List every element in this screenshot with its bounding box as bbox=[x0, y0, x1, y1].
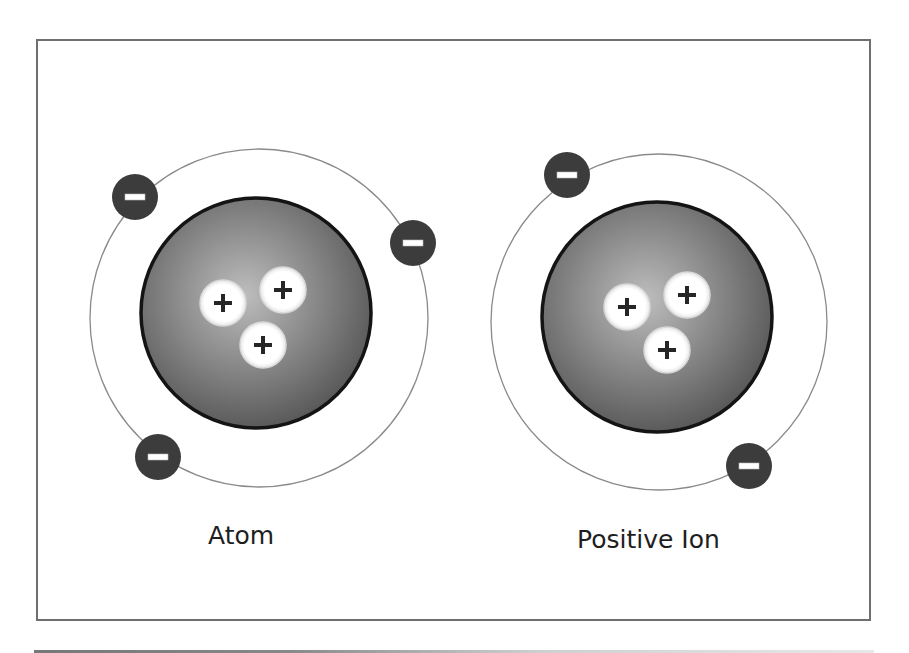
electron-icon bbox=[726, 443, 772, 489]
nucleus bbox=[141, 198, 371, 428]
atom-label: Atom bbox=[208, 521, 274, 550]
electron-icon bbox=[390, 220, 436, 266]
atom-diagrams bbox=[0, 0, 909, 653]
proton-icon bbox=[240, 322, 286, 368]
proton-icon bbox=[200, 280, 246, 326]
electron-icon bbox=[112, 174, 158, 220]
proton-icon bbox=[604, 284, 650, 330]
electron-icon bbox=[544, 152, 590, 198]
nucleus bbox=[542, 202, 772, 432]
electron-icon bbox=[135, 434, 181, 480]
positive-ion-group bbox=[491, 152, 827, 490]
atom-group bbox=[90, 149, 436, 487]
proton-icon bbox=[644, 327, 690, 373]
proton-icon bbox=[664, 272, 710, 318]
proton-icon bbox=[260, 267, 306, 313]
positive-ion-label: Positive Ion bbox=[577, 525, 720, 554]
